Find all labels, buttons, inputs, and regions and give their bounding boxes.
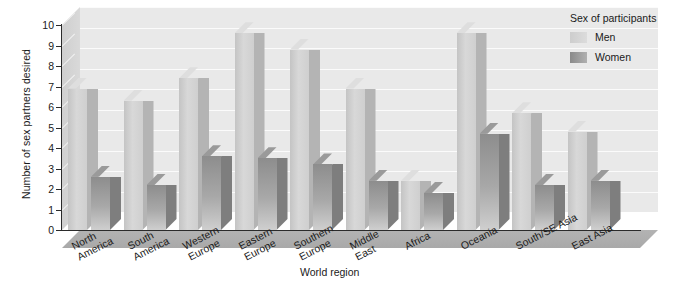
bar-front xyxy=(91,177,110,230)
bar-men xyxy=(235,33,254,230)
legend-title: Sex of participants xyxy=(570,12,656,24)
plot-area: 012345678910 NorthAmericaSouthAmericaWes… xyxy=(62,25,640,230)
bar-side xyxy=(610,181,621,230)
bar-front xyxy=(424,193,443,230)
legend-item-women: Women xyxy=(570,51,656,63)
y-tick xyxy=(56,66,62,67)
bar-front xyxy=(179,78,198,230)
y-tick-label: 0 xyxy=(38,225,54,235)
y-tick-label: 1 xyxy=(38,205,54,215)
y-tick xyxy=(56,46,62,47)
bar-top xyxy=(179,67,198,78)
bar-front xyxy=(290,50,309,230)
bar-front xyxy=(313,164,332,230)
bar-front xyxy=(68,89,87,230)
y-tick-label: 4 xyxy=(38,143,54,153)
bar-top xyxy=(290,39,309,50)
y-tick-label: 9 xyxy=(38,41,54,51)
bar-front xyxy=(124,101,143,230)
y-tick xyxy=(56,128,62,129)
bar-front xyxy=(147,185,166,230)
bar-group xyxy=(512,25,558,230)
bar-top xyxy=(68,78,87,89)
bar-group xyxy=(290,25,336,230)
y-tick xyxy=(56,87,62,88)
bar-group xyxy=(124,25,170,230)
bar-men xyxy=(401,181,420,230)
y-tick xyxy=(56,210,62,211)
bar-women xyxy=(480,134,499,230)
bar-side xyxy=(221,156,232,230)
bar-front xyxy=(401,181,420,230)
bar-front xyxy=(512,113,531,230)
bar-front xyxy=(346,89,365,230)
bar-side xyxy=(110,177,121,230)
bar-group xyxy=(346,25,392,230)
y-tick xyxy=(56,107,62,108)
x-axis-title: World region xyxy=(300,266,359,278)
y-tick-label: 6 xyxy=(38,102,54,112)
bar-front xyxy=(480,134,499,230)
bar-top xyxy=(346,78,365,89)
bar-women xyxy=(369,181,388,230)
chart-legend: Sex of participants Men Women xyxy=(570,12,656,71)
y-tick-label: 8 xyxy=(38,61,54,71)
y-tick-label: 3 xyxy=(38,164,54,174)
bar-front xyxy=(457,33,476,230)
bar-men xyxy=(124,101,143,230)
bar-men xyxy=(346,89,365,230)
gridline xyxy=(80,7,658,8)
bar-front xyxy=(369,181,388,230)
bar-women xyxy=(258,158,277,230)
y-tick-label: 5 xyxy=(38,123,54,133)
bar-side xyxy=(166,185,177,230)
bar-side xyxy=(443,193,454,230)
bar-top xyxy=(512,102,531,113)
y-axis-title: Number of sex partners desired xyxy=(20,24,32,224)
bar-front xyxy=(202,156,221,230)
legend-swatch-women xyxy=(570,52,587,63)
y-tick xyxy=(56,230,62,231)
bar-top xyxy=(401,170,420,181)
bar-top xyxy=(124,90,143,101)
bar-women xyxy=(424,193,443,230)
bar-side xyxy=(388,181,399,230)
chart-figure: Number of sex partners desired 012345678… xyxy=(0,0,695,292)
bar-side xyxy=(332,164,343,230)
bar-front xyxy=(235,33,254,230)
y-tick-label: 10 xyxy=(38,20,54,30)
y-tick-label: 2 xyxy=(38,184,54,194)
bar-group xyxy=(235,25,281,230)
bar-front xyxy=(258,158,277,230)
bar-top xyxy=(568,121,587,132)
bar-men xyxy=(457,33,476,230)
bar-men xyxy=(290,50,309,230)
bar-side xyxy=(499,134,510,230)
y-tick xyxy=(56,25,62,26)
bar-women xyxy=(147,185,166,230)
bar-group xyxy=(179,25,225,230)
legend-label-men: Men xyxy=(595,31,615,43)
bar-side xyxy=(277,158,288,230)
y-tick-label: 7 xyxy=(38,82,54,92)
gridline-side xyxy=(62,12,75,25)
bar-women xyxy=(313,164,332,230)
bar-group xyxy=(68,25,114,230)
y-tick xyxy=(56,189,62,190)
y-tick xyxy=(56,148,62,149)
bar-group xyxy=(401,25,447,230)
bar-men xyxy=(512,113,531,230)
legend-label-women: Women xyxy=(595,51,631,63)
bar-group xyxy=(457,25,503,230)
y-tick xyxy=(56,169,62,170)
legend-item-men: Men xyxy=(570,31,656,43)
bar-women xyxy=(91,177,110,230)
bar-men xyxy=(179,78,198,230)
bar-women xyxy=(202,156,221,230)
legend-swatch-men xyxy=(570,32,587,43)
bar-men xyxy=(68,89,87,230)
